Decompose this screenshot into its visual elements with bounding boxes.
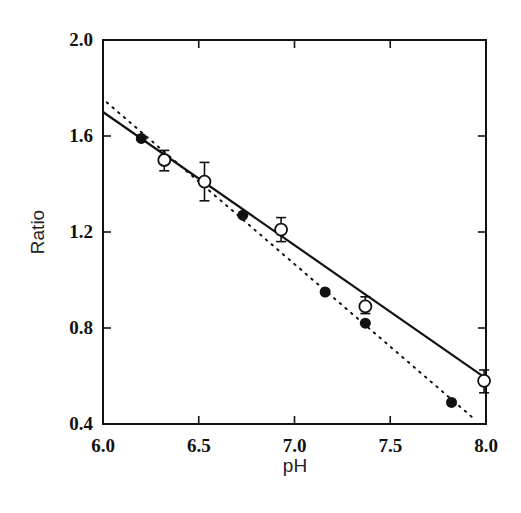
plot-frame [103, 40, 486, 424]
x-tick-label: 6.5 [187, 435, 211, 456]
x-tick-labels: 6.06.57.07.58.0 [91, 435, 498, 456]
axis-ticks [103, 40, 486, 424]
x-tick-label: 6.0 [91, 435, 115, 456]
open-circle-marker [198, 176, 210, 188]
y-tick-labels: 0.40.81.21.62.0 [69, 29, 93, 434]
y-tick-label: 1.6 [69, 125, 93, 146]
filled-circle-marker [237, 210, 248, 221]
data-points [136, 133, 490, 408]
y-axis-title: Ratio [27, 210, 48, 254]
scatter-chart: 6.06.57.07.58.0 0.40.81.21.62.0 pH Ratio [0, 0, 521, 513]
x-tick-label: 8.0 [474, 435, 498, 456]
open-circle-marker [158, 154, 170, 166]
filled-circle-marker [360, 318, 371, 329]
x-tick-label: 7.5 [378, 435, 402, 456]
filled-circle-marker [136, 133, 147, 144]
x-axis-title: pH [283, 455, 307, 476]
filled-circle-marker [320, 287, 331, 298]
y-tick-label: 1.2 [69, 221, 93, 242]
open-circle-marker [359, 300, 371, 312]
y-tick-label: 0.4 [69, 413, 93, 434]
y-tick-label: 2.0 [69, 29, 93, 50]
y-tick-label: 0.8 [69, 317, 93, 338]
x-tick-label: 7.0 [283, 435, 307, 456]
plot-border [103, 40, 486, 424]
solid-fit-line [103, 112, 486, 378]
open-circle-marker [478, 375, 490, 387]
filled-circle-marker [446, 397, 457, 408]
open-circle-marker [275, 224, 287, 236]
